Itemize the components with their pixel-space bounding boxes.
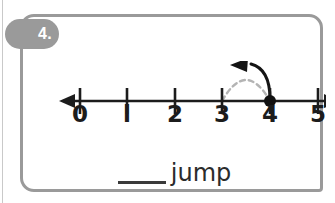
jump-arc-dashed-icon	[222, 80, 270, 101]
tick-label-4: 4	[255, 101, 285, 127]
worksheet-card: 4. 0 l 2	[20, 14, 323, 192]
tick-label-2: 2	[160, 101, 190, 127]
prompt-word-label: jump	[171, 161, 232, 185]
tick-label-0: 0	[65, 101, 95, 127]
answer-prompt: jump	[23, 153, 326, 193]
jump-arrow-head-icon	[230, 61, 248, 72]
problem-number-label: 4.	[38, 26, 52, 42]
tick-label-5: 5	[303, 101, 333, 127]
page-edge-rule	[2, 0, 3, 203]
tick-label-1: l	[112, 101, 142, 127]
problem-number-badge: 4.	[5, 19, 59, 49]
tick-label-group: 0 l 2 3 4 5	[23, 101, 326, 131]
tick-label-3: 3	[207, 101, 237, 127]
answer-blank[interactable]	[118, 181, 166, 184]
